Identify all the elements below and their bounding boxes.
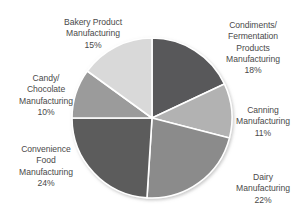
pie-label-canning-percent: 11%: [220, 128, 306, 139]
pie-label-candy-percent: 10%: [2, 107, 90, 118]
pie-label-condiments-name: Condiments/ Fermentation Products Manufa…: [226, 20, 280, 64]
pie-label-convenience-name: Convenience Food Manufacturing: [19, 144, 73, 176]
pie-label-canning-name: Canning Manufacturing: [236, 105, 290, 126]
pie-label-bakery: Bakery Product Manufacturing 15%: [38, 6, 148, 62]
pie-label-candy: Candy/ Chocolate Manufacturing 10%: [2, 62, 90, 129]
pie-label-dairy-percent: 22%: [220, 195, 306, 206]
pie-label-convenience-percent: 24%: [2, 178, 90, 189]
pie-label-candy-name: Candy/ Chocolate Manufacturing: [19, 73, 73, 105]
pie-label-convenience: Convenience Food Manufacturing 24%: [2, 133, 90, 200]
pie-label-dairy: Dairy Manufacturing 22%: [220, 161, 306, 217]
pie-label-bakery-percent: 15%: [38, 40, 148, 51]
pie-label-bakery-name: Bakery Product Manufacturing: [64, 17, 122, 38]
pie-chart: Bakery Product Manufacturing 15% Condime…: [0, 0, 308, 217]
pie-label-dairy-name: Dairy Manufacturing: [236, 172, 290, 193]
pie-label-condiments-percent: 18%: [204, 65, 302, 76]
pie-label-canning: Canning Manufacturing 11%: [220, 94, 306, 150]
pie-label-condiments: Condiments/ Fermentation Products Manufa…: [204, 9, 302, 87]
